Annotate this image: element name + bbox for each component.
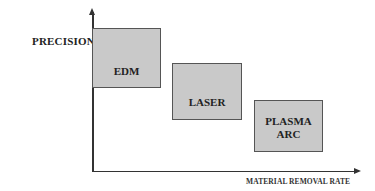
box-plasma-arc: PLASMA ARC [254,100,323,152]
box-label-edm: EDM [114,65,140,78]
x-axis-arrow-icon [354,168,361,174]
x-axis-label: MATERIAL REMOVAL RATE [246,177,350,186]
box-edm: EDM [92,28,161,88]
box-label-arc: ARC [277,128,301,141]
box-label-laser: LASER [189,96,226,109]
box-label-plasma: PLASMA [265,115,311,128]
x-axis [92,171,357,173]
y-axis-label: PRECISION [32,35,95,47]
box-laser: LASER [172,63,242,120]
